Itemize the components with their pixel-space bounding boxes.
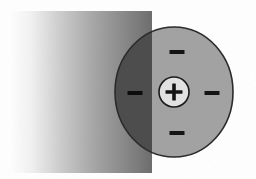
figure-root [0,0,256,179]
paper-grain-overlay [0,0,256,179]
atom-field-diagram [0,0,256,179]
